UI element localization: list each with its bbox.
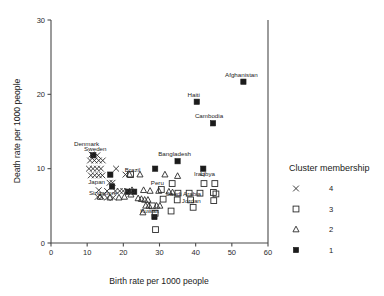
open-square-marker xyxy=(190,204,196,210)
open-triangle-marker xyxy=(162,171,168,177)
y-axis-title: Death rate per 1000 people xyxy=(12,78,22,183)
x-axis-title: Birth rate per 1000 people xyxy=(109,276,209,286)
open-square-marker xyxy=(201,181,207,187)
legend-entry-label: 3 xyxy=(329,205,333,214)
open-square-marker xyxy=(153,227,159,233)
point-label: Japan xyxy=(88,178,105,185)
open-square-marker xyxy=(169,181,175,187)
filled-square-marker xyxy=(194,99,199,104)
point-label: Sweden xyxy=(84,145,107,152)
legend: Cluster membership4321 xyxy=(289,163,370,255)
axis-tick-labels: 01020304050600102030 xyxy=(37,16,273,257)
point-label: Libya xyxy=(200,170,215,177)
open-square-marker xyxy=(168,208,174,214)
open-triangle-marker xyxy=(147,188,153,194)
y-tick-label: 20 xyxy=(37,90,45,99)
x-tick-label: 20 xyxy=(119,248,127,257)
x-tick-label: 50 xyxy=(228,248,236,257)
cross-marker xyxy=(293,186,299,192)
legend-entry-label: 4 xyxy=(329,184,333,193)
filled-square-marker xyxy=(241,79,246,84)
plot-canvas: 01020304050600102030 AfghanistanHaitiCam… xyxy=(0,0,384,296)
x-tick-label: 30 xyxy=(155,248,163,257)
point-label: Singapore xyxy=(89,189,118,196)
cross-marker xyxy=(113,166,119,172)
point-label: Cambodia xyxy=(195,112,224,119)
x-tick-label: 10 xyxy=(83,248,91,257)
point-label: Kuwait xyxy=(140,207,159,214)
y-tick-label: 0 xyxy=(41,239,45,248)
legend-title: Cluster membership xyxy=(289,163,370,173)
open-square-marker xyxy=(211,198,217,204)
legend-entry-label: 2 xyxy=(329,225,333,234)
open-square-marker xyxy=(174,197,180,203)
open-triangle-marker xyxy=(175,173,181,179)
point-label: Afghanistan xyxy=(225,71,258,78)
axis-spines xyxy=(51,20,268,243)
scatter-chart: 01020304050600102030 AfghanistanHaitiCam… xyxy=(0,0,384,296)
axes xyxy=(51,20,268,243)
open-triangle-marker xyxy=(141,187,147,193)
x-tick-label: 40 xyxy=(191,248,199,257)
filled-square-marker xyxy=(153,166,158,171)
filled-square-marker xyxy=(175,159,180,164)
point-label: Bangladesh xyxy=(158,150,191,157)
y-tick-label: 10 xyxy=(37,164,45,173)
cross-marker xyxy=(100,158,106,164)
point-label: Peru xyxy=(151,179,165,186)
filled-square-marker xyxy=(210,121,215,126)
x-tick-label: 60 xyxy=(264,248,272,257)
open-triangle-marker xyxy=(293,226,299,232)
cross-marker xyxy=(98,166,104,172)
point-label: Brazil xyxy=(125,166,140,173)
open-square-marker xyxy=(212,181,218,187)
x-tick-label: 0 xyxy=(49,248,53,257)
filled-square-marker xyxy=(293,247,298,252)
legend-entry-label: 1 xyxy=(329,246,333,255)
filled-square-marker xyxy=(108,172,113,177)
point-labels: AfghanistanHaitiCambodiaBangladeshKuwait… xyxy=(74,71,258,214)
open-square-marker xyxy=(293,206,299,212)
point-label: Jordan xyxy=(182,197,201,204)
point-label: Haiti xyxy=(188,91,200,98)
y-tick-label: 30 xyxy=(37,16,45,25)
